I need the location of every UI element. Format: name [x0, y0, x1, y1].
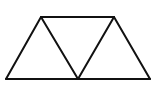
- segment-EA: [6, 17, 41, 79]
- trapezoid-diagram: [0, 0, 159, 88]
- diagram-lines: [6, 17, 150, 79]
- segment-DB: [78, 17, 114, 79]
- segment-BC: [114, 17, 150, 79]
- segment-AD: [41, 17, 78, 79]
